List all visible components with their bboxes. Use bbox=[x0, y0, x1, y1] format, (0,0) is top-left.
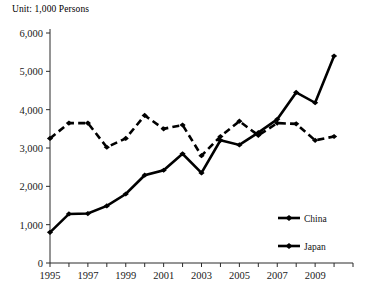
x-tick-label: 2001 bbox=[153, 270, 174, 281]
line-chart: 01,0002,0003,0004,0005,0006,000 19951997… bbox=[0, 0, 365, 301]
data-point-marker-japan bbox=[66, 120, 72, 125]
x-tick-label: 2003 bbox=[191, 270, 212, 281]
y-tick-label: 2,000 bbox=[19, 181, 43, 192]
x-tick-label: 1999 bbox=[115, 270, 136, 281]
x-tick-label: 2007 bbox=[267, 270, 288, 281]
legend-label-japan: Japan bbox=[304, 242, 326, 252]
y-tick-label: 0 bbox=[38, 258, 43, 269]
series-line-japan bbox=[50, 115, 334, 155]
data-point-marker-japan bbox=[293, 121, 299, 126]
y-tick-label: 5,000 bbox=[19, 66, 43, 77]
y-axis: 01,0002,0003,0004,0005,0006,000 bbox=[19, 28, 50, 269]
y-tick-label: 4,000 bbox=[19, 105, 43, 116]
data-point-marker-japan bbox=[331, 134, 337, 139]
y-tick-label: 3,000 bbox=[19, 143, 43, 154]
y-tick-label: 6,000 bbox=[19, 28, 43, 39]
chart-container: Unit: 1,000 Persons 01,0002,0003,0004,00… bbox=[0, 0, 365, 301]
x-tick-label: 1995 bbox=[40, 270, 61, 281]
x-tick-label: 2005 bbox=[229, 270, 250, 281]
series-line-china bbox=[50, 56, 334, 232]
data-point-marker-japan bbox=[161, 126, 167, 131]
legend-label-china: China bbox=[304, 214, 327, 224]
chart-legend: ChinaJapan bbox=[278, 214, 327, 252]
legend-marker-japan bbox=[285, 243, 292, 249]
x-tick-label: 1997 bbox=[77, 270, 98, 281]
x-tick-label: 2009 bbox=[305, 270, 326, 281]
x-axis: 19951997199920012003200520072009 bbox=[40, 263, 354, 281]
data-point-marker-china bbox=[331, 53, 337, 58]
y-tick-label: 1,000 bbox=[19, 220, 43, 231]
series-layer bbox=[47, 53, 337, 235]
legend-marker-china bbox=[285, 215, 292, 221]
